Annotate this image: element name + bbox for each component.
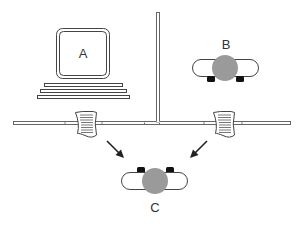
node-label-b: B <box>222 37 231 52</box>
computer-a: A <box>38 29 130 99</box>
device-b: B <box>193 37 259 82</box>
network-diagram: A B <box>0 0 304 225</box>
device-foot-icon <box>236 76 244 82</box>
node-label-a: A <box>79 46 88 61</box>
network-bus-horizontal <box>14 121 291 125</box>
device-c: C <box>122 167 188 215</box>
document-packet-right-icon <box>214 111 235 137</box>
arrow-left-to-c-icon <box>107 141 124 158</box>
node-label-c: C <box>150 200 159 215</box>
device-foot-icon <box>207 76 215 82</box>
arrow-right-to-c-icon <box>190 141 207 158</box>
network-trunk-vertical <box>157 13 160 123</box>
device-body-icon <box>212 55 238 81</box>
document-packet-left-icon <box>76 111 97 137</box>
keyboard-icon <box>38 84 130 99</box>
device-body-icon <box>142 168 168 194</box>
